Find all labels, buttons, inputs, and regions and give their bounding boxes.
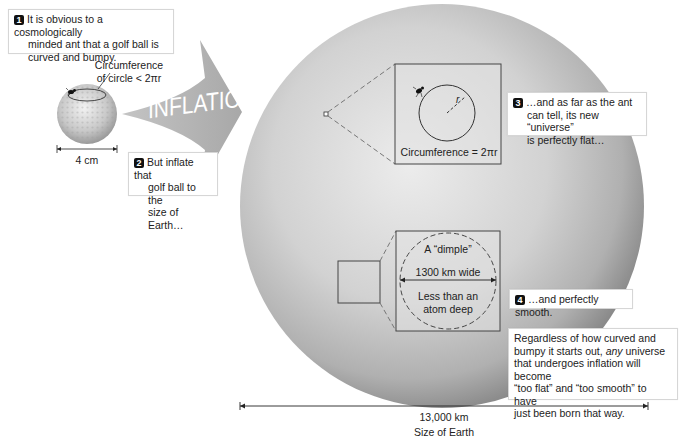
callout-4: 4…and perfectly smooth. [509,289,633,309]
callout-3-text: …and as far as the ant [526,96,632,108]
summary-callout: Regardless of how curved and bumpy it st… [508,328,678,400]
summary-text: Regardless of how curved and [514,332,672,345]
flat-circumference-label: Circumference = 2πr [396,146,502,159]
golf-ball-size-label: 4 cm [57,154,117,167]
step-badge-1: 1 [14,15,24,25]
summary-text: “too flat” and “too smooth” to have [514,382,672,407]
earth-size-value: 13,000 km [394,411,494,424]
callout-3-text: is perfectly flat… [513,134,641,147]
dimple-width-label: 1300 km wide [396,266,500,279]
summary-emphasis: any [606,345,623,357]
callout-2: 2But inflate that golf ball to the size … [128,152,218,196]
label-line: atom deep [396,303,500,316]
dimple-title: A “dimple” [396,243,500,256]
golf-ball-circumference-label: Circumference of circle < 2πr [74,59,184,84]
radius-label: r [456,94,459,105]
label-line: Less than an [396,290,500,303]
callout-3-text: can tell, its new “universe” [513,109,641,134]
callout-3: 3…and as far as the ant can tell, its ne… [507,92,647,136]
label-line: Circumference [74,59,184,72]
summary-text: that undergoes inflation will become [514,357,672,382]
callout-2-text: size of Earth… [134,206,212,231]
callout-1: 1It is obvious to a cosmologically minde… [8,9,174,54]
dimple-depth-label: Less than an atom deep [396,290,500,315]
summary-text: just been born that way. [514,407,672,420]
callout-2-text: golf ball to the [134,181,212,206]
step-badge-3: 3 [513,98,523,108]
callout-1-text: It is obvious to a cosmologically [14,13,103,38]
label-line: of circle < 2πr [74,72,184,85]
earth-size-label: Size of Earth [394,426,494,439]
callout-1-text: minded ant that a golf ball is [14,38,168,51]
summary-text: bumpy it starts out, [514,345,606,357]
summary-text: bumpy it starts out, any universe [514,345,672,358]
step-badge-2: 2 [134,158,144,168]
step-badge-4: 4 [515,295,525,305]
summary-text: universe [623,345,666,357]
golf-ball-dimension [57,145,117,153]
